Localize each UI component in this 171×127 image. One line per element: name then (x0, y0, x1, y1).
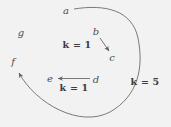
edge-weight-d-to-e: k = 1 (60, 83, 89, 93)
graph-figure: a b c d e f g k = 1 k = 1 k = 5 (0, 0, 171, 127)
edge-layer (0, 0, 171, 127)
edge-a-to-f (19, 7, 140, 117)
node-label-g: g (18, 28, 24, 38)
edge-weight-b-to-c: k = 1 (63, 40, 92, 50)
node-label-d: d (93, 75, 99, 85)
edge-b-to-c (100, 38, 109, 51)
node-label-f: f (11, 57, 15, 67)
node-label-e: e (47, 74, 53, 84)
node-label-b: b (93, 27, 99, 37)
edge-weight-a-to-f: k = 5 (131, 77, 160, 87)
node-label-c: c (109, 53, 115, 63)
node-label-a: a (63, 6, 69, 16)
